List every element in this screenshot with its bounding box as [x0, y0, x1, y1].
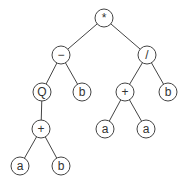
- tree-node: a: [11, 157, 29, 175]
- tree-node: Q: [33, 83, 51, 101]
- node-label: Q: [37, 85, 46, 99]
- node-label: a: [17, 159, 24, 173]
- tree-node: −: [52, 46, 70, 64]
- node-label: −: [57, 48, 64, 62]
- tree-node: a: [96, 120, 114, 138]
- tree-node: b: [52, 157, 70, 175]
- tree-node: a: [137, 120, 155, 138]
- nodes: *−/Qb+b+aaab: [11, 9, 177, 175]
- node-label: b: [165, 85, 172, 99]
- expression-tree: *−/Qb+b+aaab: [0, 0, 186, 188]
- node-label: +: [37, 122, 44, 136]
- node-label: +: [121, 85, 128, 99]
- tree-node: b: [159, 83, 177, 101]
- node-label: a: [143, 122, 150, 136]
- node-label: *: [102, 11, 107, 25]
- tree-node: *: [95, 9, 113, 27]
- tree-node: +: [32, 120, 50, 138]
- node-label: b: [58, 159, 65, 173]
- tree-node: +: [116, 83, 134, 101]
- tree-node: b: [73, 83, 91, 101]
- node-label: a: [102, 122, 109, 136]
- node-label: b: [79, 85, 86, 99]
- tree-node: /: [138, 46, 156, 64]
